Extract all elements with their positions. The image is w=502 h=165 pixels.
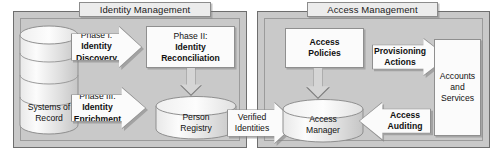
diagram-canvas: Systems of Record Phase I: Identity Disc… (0, 0, 502, 165)
node-access-policies[interactable]: Access Policies (285, 28, 364, 68)
node-phase2-line3: Reconciliation (161, 53, 220, 64)
node-accounts-and-services-line1: Accounts (440, 71, 475, 82)
node-person-registry[interactable]: Person Registry (154, 96, 238, 140)
node-access-policies-line1: Access (309, 37, 339, 48)
node-phase2[interactable]: Phase II: Identity Reconciliation (146, 26, 235, 68)
node-verified-identities-line2: Identities (235, 123, 269, 134)
node-provisioning-actions-line2: Actions (384, 57, 416, 68)
node-verified-identities-line1: Verified (238, 112, 267, 123)
group-title-identity-management[interactable]: Identity Management (79, 2, 211, 17)
node-phase2-line2: Identity (175, 42, 206, 53)
group-title-access-management[interactable]: Access Management (307, 2, 438, 17)
node-access-manager[interactable]: Access Manager (281, 99, 365, 143)
group-title-identity-management-label: Identity Management (100, 4, 191, 15)
node-access-policies-line2: Policies (308, 48, 340, 59)
group-title-access-management-label: Access Management (327, 4, 417, 15)
node-provisioning-actions-line1: Provisioning (374, 46, 426, 57)
node-phase2-line1: Phase II: (174, 31, 208, 42)
node-phase3-line2: Identity (82, 102, 113, 113)
node-phase1-line2: Identity (81, 41, 112, 52)
node-accounts-and-services-line2: and (450, 82, 464, 93)
node-accounts-and-services[interactable]: Accounts and Services (434, 39, 481, 136)
node-accounts-and-services-line3: Services (441, 93, 474, 104)
node-access-auditing-line1: Access (390, 110, 420, 121)
node-access-auditing-line2: Auditing (388, 121, 423, 132)
